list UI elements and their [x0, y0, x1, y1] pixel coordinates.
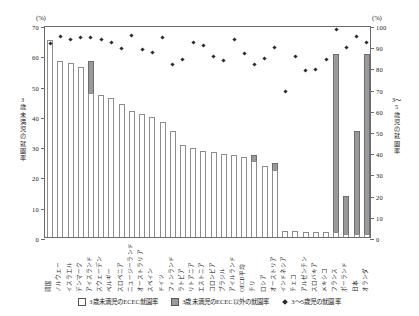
left-axis-unit: (%) [36, 14, 46, 21]
legend-swatch-open-icon [78, 298, 86, 306]
bar-segment-ecec [282, 231, 288, 237]
bar-segment-other [272, 163, 278, 171]
right-tick [370, 197, 374, 198]
right-axis-unit: (%) [372, 14, 382, 21]
category-label: インドネシア [280, 240, 286, 292]
right-tick-label: 30 [376, 172, 383, 179]
bar-segment-ecec [139, 114, 145, 237]
bar-segment-other [333, 54, 339, 233]
bar-column [180, 25, 186, 237]
bar-segment-other [354, 131, 360, 234]
bar-segment-ecec [313, 232, 319, 237]
bar-segment-ecec [211, 152, 217, 237]
bar-column [149, 25, 155, 237]
bar-segment-ecec [343, 234, 349, 237]
category-label: 韓国 [45, 240, 51, 292]
bar-column [47, 25, 53, 237]
right-tick [370, 154, 374, 155]
right-tick [370, 175, 374, 176]
right-tick [370, 27, 374, 28]
right-tick-label: 50 [376, 130, 383, 137]
category-label: ロシア [260, 240, 266, 292]
left-axis-title: 3歳未満児の就園率 [18, 96, 27, 162]
legend-label-other: 3歳未満児のECEC以外の就園率 [182, 297, 269, 306]
category-label: アルゼンチン [301, 240, 307, 292]
bar-column [98, 25, 104, 237]
legend-item-ecec: 3歳未満児のECEC就園率 [78, 297, 158, 306]
right-tick-label: 80 [376, 66, 383, 73]
category-label: オランダ [362, 240, 368, 292]
category-label: チリ [249, 240, 255, 292]
right-tick [370, 133, 374, 134]
bar-column [343, 25, 349, 237]
bar-segment-ecec [241, 157, 247, 237]
bar-segment-other [343, 196, 349, 234]
category-label: チェコ [290, 240, 296, 292]
bar-column [139, 25, 145, 237]
chart-root: (%) (%) 3歳未満児の就園率 3〜5歳児の就園率 010203040506… [0, 0, 419, 316]
category-label: 日本 [352, 240, 358, 292]
bar-segment-ecec [251, 161, 257, 237]
bar-segment-ecec [180, 145, 186, 237]
legend-swatch-diamond-icon [282, 299, 288, 305]
bar-column [272, 25, 278, 237]
bar-column [88, 25, 94, 237]
legend-swatch-filled-icon [171, 298, 179, 306]
bar-segment-ecec [108, 98, 114, 237]
bar-segment-ecec [333, 232, 339, 237]
bar-segment-ecec [78, 67, 84, 237]
bar-column [282, 25, 288, 237]
category-label: ドイツ [158, 240, 164, 292]
category-label: イスラエル [66, 240, 72, 292]
right-tick [370, 91, 374, 92]
category-label: メキシコ [321, 240, 327, 292]
right-tick-label: 100 [376, 24, 386, 31]
right-axis-title: 3〜5歳児の就園率 [392, 96, 401, 154]
legend-item-age35: 3〜5歳児の就園率 [282, 297, 340, 306]
bar-column [78, 25, 84, 237]
bar-column [231, 25, 237, 237]
bar-segment-other [364, 54, 370, 234]
right-tick [370, 48, 374, 49]
bar-column [160, 25, 166, 237]
bar-segment-ecec [170, 131, 176, 237]
category-label: アイスランド [86, 240, 92, 292]
bar-column [221, 25, 227, 237]
bar-segment-ecec [221, 154, 227, 237]
category-labels: 韓国ノルウェーイスラエルデンマークアイスランドスウェーデンベルギースロベニアニュ… [44, 240, 371, 292]
category-label: フランス [331, 240, 337, 292]
bar-segment-ecec [129, 111, 135, 237]
category-label: アイルランド [229, 240, 235, 292]
bar-column [68, 25, 74, 237]
right-tick [370, 218, 374, 219]
bar-segment-ecec [57, 61, 63, 237]
bar-segment-ecec [354, 234, 360, 237]
bar-segment-ecec [303, 232, 309, 237]
category-label: ベルギー [106, 240, 112, 292]
right-tick-label: 0 [376, 236, 379, 243]
bar-column [333, 25, 339, 237]
right-tick [370, 112, 374, 113]
category-label: オーストラリア [137, 240, 143, 292]
bar-column [313, 25, 319, 237]
bar-column [119, 25, 125, 237]
bar-column [241, 25, 247, 237]
legend: 3歳未満児のECEC就園率 3歳未満児のECEC以外の就園率 3〜5歳児の就園率 [0, 297, 419, 306]
bar-segment-ecec [160, 122, 166, 237]
bar-column [129, 25, 135, 237]
bar-segment-ecec [231, 155, 237, 237]
bar-segment-ecec [47, 40, 53, 237]
bar-column [251, 25, 257, 237]
bar-segment-ecec [190, 148, 196, 237]
bar-segment-ecec [68, 63, 74, 237]
bar-column [190, 25, 196, 237]
bar-column [364, 25, 370, 237]
legend-label-ecec: 3歳未満児のECEC就園率 [89, 297, 158, 306]
bar-segment-other [88, 61, 94, 93]
bar-column [200, 25, 206, 237]
bar-segment-ecec [323, 232, 329, 237]
legend-item-other: 3歳未満児のECEC以外の就園率 [171, 297, 269, 306]
category-label: フィンランド [168, 240, 174, 292]
left-tick-label: 20 [32, 175, 39, 182]
right-tick-label: 20 [376, 193, 383, 200]
